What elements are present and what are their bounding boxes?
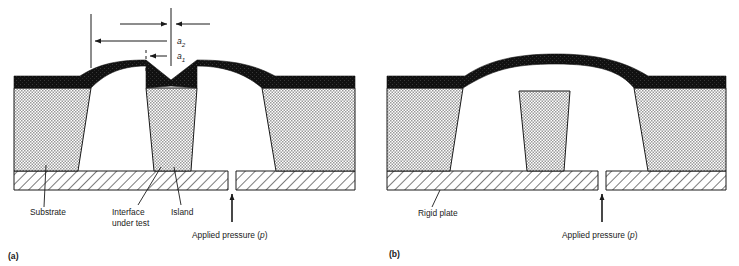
- island-body: [519, 91, 570, 171]
- panel-b-rigid-plate: [387, 171, 726, 190]
- label-interface-line1: Interface: [112, 207, 145, 217]
- label-rigid-plate: Rigid plate: [418, 208, 458, 218]
- substrate-right-block: [634, 88, 726, 171]
- label-applied-pressure: Applied pressure (p): [562, 230, 638, 240]
- rigid-plate-left-segment: [387, 171, 598, 190]
- substrate-left-block: [14, 88, 91, 171]
- panel-a-island: [146, 88, 197, 171]
- label-island: Island: [171, 207, 194, 217]
- label-substrate: Substrate: [30, 207, 66, 217]
- panel-a-rigid-plate: [14, 171, 355, 190]
- panel-b-island: [519, 91, 570, 171]
- label-interface-line2: under test: [112, 218, 150, 228]
- figure-background: [0, 0, 739, 266]
- panel-caption-a: (a): [8, 251, 19, 261]
- rigid-plate-right-segment: [236, 171, 355, 190]
- figure-root: a2 a1 Substrate Interface under test Isl…: [0, 0, 739, 266]
- substrate-right-block: [262, 88, 355, 171]
- substrate-left-block: [387, 88, 463, 171]
- label-applied-pressure: Applied pressure (p): [192, 230, 268, 240]
- rigid-plate-left-segment: [14, 171, 228, 190]
- panel-caption-b: (b): [389, 249, 400, 259]
- blister-test-figure: a2 a1 Substrate Interface under test Isl…: [0, 0, 739, 266]
- rigid-plate-right-segment: [606, 171, 726, 190]
- island-body: [146, 88, 197, 171]
